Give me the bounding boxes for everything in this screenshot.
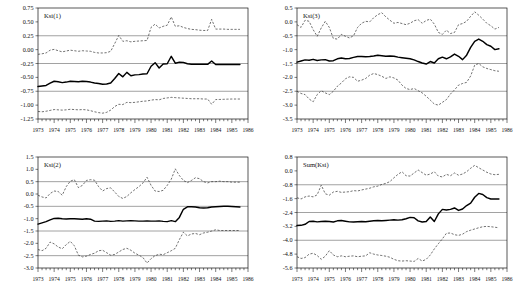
series-upper-band [38,169,240,199]
x-tick-label: 1973 [32,127,43,133]
x-tick-label: 1973 [291,276,302,282]
x-tick-label: 1986 [501,276,512,282]
series-estimate [297,193,499,225]
series-estimate [38,206,240,224]
x-tick-label: 1984 [469,276,480,282]
y-tick-label: 1.0 [26,165,34,172]
plot-frame [38,157,248,268]
x-tick-label: 1977 [97,127,108,133]
x-tick-label: 1983 [453,127,464,133]
series-upper-band [297,165,499,199]
y-tick-label: 0.00 [23,46,34,53]
x-tick-label: 1981 [421,276,432,282]
y-tick-label: -1.00 [21,101,34,108]
y-tick-label: 0.0 [285,18,293,25]
x-tick-label: 1980 [145,276,156,282]
x-tick-label: 1979 [129,127,140,133]
x-tick-label: 1974 [49,127,60,133]
x-tick-label: 1973 [32,276,43,282]
series-upper-band [297,12,499,39]
x-tick-label: 1973 [291,127,302,133]
x-tick-label: 1981 [162,127,173,133]
x-tick-label: 1985 [485,276,496,282]
x-tick-label: 1976 [340,127,351,133]
x-tick-label: 1981 [162,276,173,282]
x-tick-label: 1984 [469,127,480,133]
x-tick-label: 1976 [340,276,351,282]
x-tick-label: 1978 [113,276,124,282]
x-tick-label: 1978 [372,276,383,282]
x-tick-label: 1986 [242,276,253,282]
x-tick-label: 1974 [49,276,60,282]
x-tick-label: 1974 [308,276,319,282]
y-tick-label: -0.25 [21,60,34,67]
y-tick-label: -1.25 [21,115,34,122]
y-tick-label: -0.75 [21,87,34,94]
y-tick-label: 0.5 [26,178,34,185]
y-tick-label: 0.8 [285,153,293,160]
y-tick-label: -3.0 [283,101,293,108]
panel-ksi1: 0.750.500.250.00-0.25-0.50-0.75-1.00-1.2… [0,0,260,149]
y-tick-label: -4.8 [283,250,293,257]
y-tick-label: 0.25 [23,32,34,39]
x-tick-label: 1982 [178,127,189,133]
x-tick-label: 1983 [453,276,464,282]
y-tick-label: -1.0 [24,215,34,222]
x-tick-label: 1983 [194,127,205,133]
x-tick-label: 1984 [210,127,221,133]
y-tick-label: -4.0 [283,236,293,243]
x-tick-label: 1976 [81,276,92,282]
x-tick-label: 1984 [210,276,221,282]
y-tick-label: -0.8 [283,181,293,188]
y-tick-label: 0.75 [23,4,34,11]
x-tick-label: 1982 [178,276,189,282]
series-lower-band [38,230,240,263]
y-tick-label: -1.6 [283,195,293,202]
x-tick-label: 1983 [194,276,205,282]
x-tick-label: 1979 [388,276,399,282]
y-tick-label: 0.0 [26,190,34,197]
y-tick-label: -3.5 [283,115,293,122]
y-tick-label: -2.5 [283,87,293,94]
y-tick-label: -2.0 [24,239,34,246]
x-tick-label: 1978 [113,127,124,133]
x-tick-label: 1986 [242,127,253,133]
panel-title: Sum(Ksi) [303,161,329,169]
series-lower-band [38,97,240,113]
x-tick-label: 1974 [308,127,319,133]
x-tick-label: 1980 [404,276,415,282]
y-tick-label: -0.5 [24,202,34,209]
x-tick-label: 1975 [324,127,335,133]
x-tick-label: 1982 [437,127,448,133]
x-tick-label: 1981 [421,127,432,133]
x-tick-label: 1985 [485,127,496,133]
x-tick-label: 1975 [65,127,76,133]
x-tick-label: 1977 [356,127,367,133]
panel-ksi2: 1.51.00.50.0-0.5-1.0-1.5-2.0-2.5-3.01973… [0,149,260,298]
x-tick-label: 1977 [356,276,367,282]
x-tick-label: 1978 [372,127,383,133]
x-tick-label: 1986 [501,127,512,133]
x-tick-label: 1985 [226,276,237,282]
series-estimate [38,56,240,86]
x-tick-label: 1980 [145,127,156,133]
y-tick-label: 1.5 [26,153,34,160]
x-tick-label: 1977 [97,276,108,282]
y-tick-label: -2.0 [283,73,293,80]
x-tick-label: 1979 [388,127,399,133]
x-tick-label: 1980 [404,127,415,133]
y-tick-label: -1.0 [283,46,293,53]
y-tick-label: -0.5 [283,32,293,39]
series-lower-band [297,64,499,106]
y-tick-label: 0.50 [23,18,34,25]
figure-kalman-filter-state-estimates: 0.750.500.250.00-0.25-0.50-0.75-1.00-1.2… [0,0,519,298]
y-tick-label: -2.5 [24,252,34,259]
y-tick-label: -1.5 [283,60,293,67]
x-tick-label: 1976 [81,127,92,133]
panel-ksi3: 0.50.0-0.5-1.0-1.5-2.0-2.5-3.0-3.5197319… [259,0,519,149]
x-tick-label: 1979 [129,276,140,282]
x-tick-label: 1982 [437,276,448,282]
y-tick-label: 0.5 [285,4,293,11]
y-tick-label: -2.4 [283,209,293,216]
x-tick-label: 1975 [65,276,76,282]
